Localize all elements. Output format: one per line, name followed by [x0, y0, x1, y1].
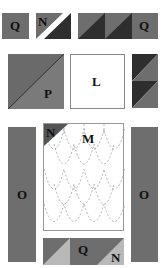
label-q: Q: [78, 243, 88, 256]
label-q: Q: [139, 19, 149, 32]
piece-bottom-strip: Q N: [43, 238, 124, 265]
label-o: O: [17, 188, 27, 201]
label-p: P: [44, 87, 52, 100]
piece-top-right-strip: Q: [78, 13, 158, 39]
piece-right-triangles: [132, 54, 158, 108]
piece-q-top-left: Q: [2, 13, 29, 39]
label-m: M: [82, 132, 94, 145]
piece-n-top: N: [36, 13, 71, 39]
piece-p: P: [8, 54, 64, 109]
label-n-corner: N: [46, 126, 55, 139]
label-n: N: [38, 15, 47, 28]
piece-m-panel: N M: [43, 123, 124, 231]
piece-o-right: O: [131, 127, 158, 262]
piece-l: L: [70, 54, 125, 109]
half-square-triangles: [132, 54, 158, 108]
diagonal-split: [8, 54, 64, 109]
label-n: N: [111, 251, 120, 264]
label-q: Q: [10, 19, 20, 32]
label-l: L: [92, 75, 101, 88]
piece-o-left: O: [8, 127, 36, 262]
label-o: O: [139, 188, 149, 201]
